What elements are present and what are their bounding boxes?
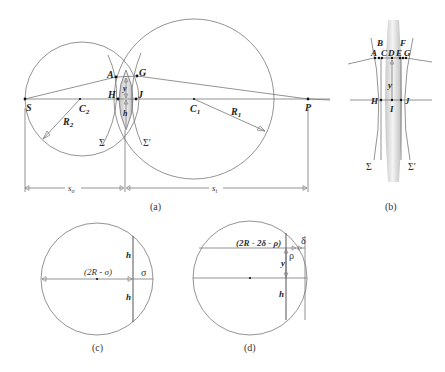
label-d-h: h — [279, 289, 284, 299]
ray-b-right — [406, 58, 432, 62]
panel-a: S C2 R2 C1 R1 A G H J P y h Σ Σ′ so si (… — [24, 19, 330, 213]
radius-r1 — [194, 99, 265, 131]
label-r1: R1 — [230, 106, 241, 119]
center-c — [96, 278, 98, 280]
caption-a: (a) — [150, 201, 161, 213]
r1-arrow-icon — [257, 126, 265, 131]
panel-b: A B C D E F G y H I J Σ Σ′ (b) — [348, 20, 432, 213]
label-d-expr: (2R - 2δ - ρ) — [236, 238, 281, 248]
point-a — [115, 76, 118, 79]
center-d — [249, 277, 251, 279]
label-g: G — [139, 67, 147, 78]
label-d-rho: ρ — [289, 250, 294, 261]
label-d-delta: δ — [301, 235, 306, 246]
label-b-sigma: Σ — [366, 161, 372, 172]
panel-d: (2R - 2δ - ρ) δ ρ y h (d) — [193, 221, 307, 354]
point-b-i — [391, 99, 393, 101]
label-c-h-top: h — [126, 250, 131, 260]
label-p: P — [305, 102, 312, 113]
label-b-c: C — [381, 48, 388, 58]
optics-lens-diagram: S C2 R2 C1 R1 A G H J P y h Σ Σ′ so si (… — [0, 0, 445, 372]
ray-b-left — [348, 58, 374, 64]
label-r2: R2 — [62, 116, 74, 129]
label-sigma: Σ — [99, 137, 105, 148]
point-b-h — [380, 99, 382, 101]
label-b-i: I — [389, 104, 394, 114]
label-s: S — [26, 102, 32, 113]
label-h: H — [107, 89, 117, 100]
label-y: y — [122, 84, 127, 93]
label-d-y: y — [280, 258, 286, 268]
point-c2 — [79, 98, 81, 100]
label-j: J — [137, 89, 144, 100]
label-c1: C1 — [190, 103, 200, 116]
label-b-d: D — [387, 48, 395, 58]
label-c-h-bottom: h — [126, 292, 131, 302]
label-b-a: A — [370, 48, 377, 58]
point-b-j — [400, 99, 402, 101]
label-b-h: H — [370, 96, 379, 106]
label-c-expr: (2R - σ) — [84, 267, 112, 277]
point-h — [117, 98, 120, 101]
label-b-b: B — [376, 38, 383, 48]
point-p — [307, 98, 310, 101]
label-a: A — [106, 69, 114, 80]
point-s — [24, 98, 27, 101]
label-c2: C2 — [79, 103, 90, 116]
ray-g-to-p — [137, 76, 308, 99]
label-c-sigma: σ — [141, 267, 147, 278]
ray-s-to-a — [25, 77, 116, 99]
label-sigma-prime: Σ′ — [143, 137, 151, 148]
label-b-sigma-prime: Σ′ — [408, 161, 416, 172]
label-b-g: G — [404, 48, 411, 58]
point-g — [136, 75, 139, 78]
label-h-lens: h — [123, 109, 128, 118]
caption-d: (d) — [244, 342, 256, 354]
label-b-j: J — [404, 96, 410, 106]
point-j — [135, 98, 138, 101]
caption-b: (b) — [385, 201, 397, 213]
caption-c: (c) — [92, 342, 103, 354]
label-b-f: F — [399, 38, 406, 48]
panel-c: (2R - σ) σ h h (c) — [41, 223, 153, 354]
point-b-b — [378, 57, 380, 59]
point-c1 — [193, 98, 195, 100]
label-b-e: E — [395, 48, 402, 58]
